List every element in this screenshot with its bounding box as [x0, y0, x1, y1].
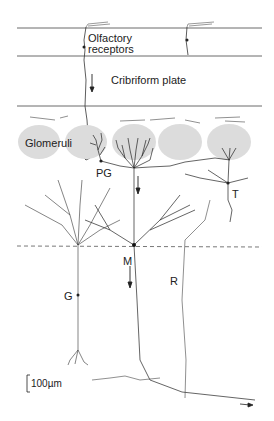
granule-cell — [25, 180, 120, 365]
receptor-cell-body — [83, 46, 86, 49]
label-g: G — [64, 290, 73, 302]
receptor-cell-body — [186, 39, 189, 42]
arrow-down-icon — [90, 74, 94, 92]
olfactory-bulb-diagram — [0, 0, 274, 421]
label-receptors: receptors — [88, 43, 134, 55]
label-r: R — [170, 275, 178, 287]
mitral-layer-line — [17, 246, 262, 247]
label-t: T — [232, 188, 239, 200]
receptor-cilia — [86, 22, 214, 27]
label-scale-bar: 100µm — [31, 378, 62, 389]
layer-lines — [17, 28, 262, 106]
label-m: M — [123, 255, 132, 267]
scale-bar — [27, 375, 30, 392]
label-cribriform-plate: Cribriform plate — [111, 74, 186, 86]
tufted-cell — [185, 148, 248, 222]
label-glomeruli: Glomeruli — [25, 137, 72, 149]
label-pg: PG — [96, 167, 112, 179]
